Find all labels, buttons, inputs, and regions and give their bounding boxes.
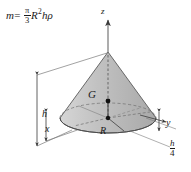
label-height: h [42, 108, 47, 119]
base-center-point [106, 116, 110, 120]
label-z-axis: z [101, 6, 105, 16]
label-radius: R [100, 125, 106, 136]
label-centroid-height-fraction: h 4 [170, 139, 175, 159]
label-centroid-g: G [88, 88, 96, 100]
label-y-axis: y [166, 117, 170, 128]
h4-extension-lower [130, 131, 170, 147]
centroid-point [106, 99, 111, 104]
cone-figure [0, 0, 191, 172]
label-h4-numerator: h [170, 139, 175, 148]
label-h4-denominator: 4 [170, 148, 175, 158]
label-x-axis: x [45, 123, 49, 134]
